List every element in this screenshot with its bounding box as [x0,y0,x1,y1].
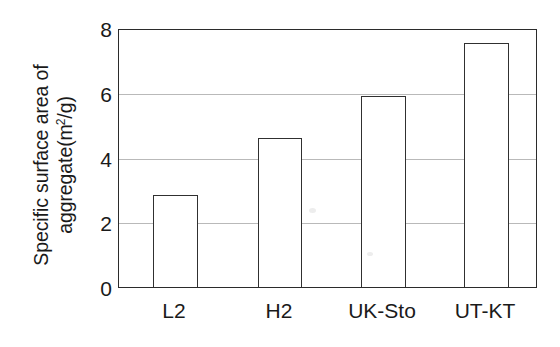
y-axis-title: Specific surface area of aggregate(m2/g) [23,20,83,310]
y-axis-title-line2: aggregate(m2/g) [53,96,77,234]
x-tick-label-ut-kt: UT-KT [455,300,516,321]
y-axis-title-line2-pre: aggregate(m [54,124,76,233]
y-axis-title-line1: Specific surface area of [29,64,53,265]
y-tick-label-8: 8 [86,19,112,40]
y-tick-label-0: 0 [86,278,112,299]
x-tick-label-l2: L2 [162,300,185,321]
bar-series [119,30,536,287]
y-tick-label-2: 2 [86,213,112,234]
plot-area [118,29,537,288]
y-tick-label-6: 6 [86,83,112,104]
bar-chart-figure: Specific surface area of aggregate(m2/g)… [0,0,560,347]
y-axis-tick-labels: 8 6 4 2 0 [86,0,112,347]
bar-h2[interactable] [258,138,302,287]
y-axis-title-superscript: 2 [54,119,68,126]
x-axis-tick-labels: L2 H2 UK-Sto UT-KT [118,300,537,340]
x-tick-label-h2: H2 [266,300,293,321]
bar-uk-sto[interactable] [361,96,406,287]
bar-l2[interactable] [153,195,198,287]
x-tick-label-uk-sto: UK-Sto [348,300,416,321]
y-axis-title-line2-post: /g) [54,96,76,118]
y-tick-label-4: 4 [86,148,112,169]
bar-ut-kt[interactable] [464,43,509,287]
